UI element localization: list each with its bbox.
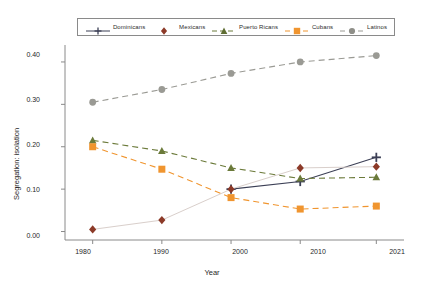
- data-point: [89, 143, 96, 150]
- data-point: [158, 86, 165, 93]
- data-point: [228, 194, 235, 201]
- y-axis-ticks: [61, 62, 65, 232]
- data-point: [297, 164, 304, 172]
- chart-figure: Dominicans Mexicans Puerto Ricans: [0, 0, 424, 290]
- data-point: [158, 216, 165, 224]
- plot-area: [0, 0, 424, 290]
- data-point: [89, 99, 96, 106]
- axis-spines: [65, 45, 404, 240]
- data-point: [89, 136, 97, 143]
- x-axis-ticks: [93, 240, 377, 244]
- series-puerto-ricans: [89, 136, 380, 181]
- data-point: [158, 166, 165, 173]
- data-point: [89, 225, 96, 233]
- data-point: [297, 206, 304, 213]
- data-point: [227, 185, 234, 193]
- data-point: [228, 70, 235, 77]
- series-latinos: [89, 52, 379, 105]
- data-point: [372, 153, 381, 162]
- data-point: [373, 162, 380, 170]
- data-point: [158, 147, 166, 154]
- data-series-layer: [89, 52, 381, 233]
- data-point: [227, 164, 235, 171]
- series-dominicans: [226, 153, 380, 194]
- series-cubans: [89, 143, 380, 212]
- data-point: [373, 203, 380, 210]
- data-point: [373, 52, 380, 59]
- data-point: [297, 59, 304, 66]
